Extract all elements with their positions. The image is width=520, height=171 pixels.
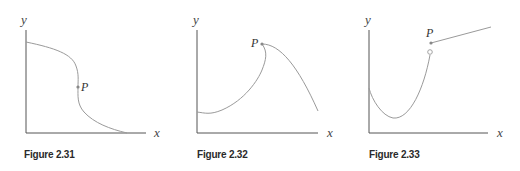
y-axis-label: y — [19, 12, 27, 27]
point-p — [76, 85, 79, 88]
caption-figure-2-32: Figure 2.32 — [197, 149, 248, 160]
caption-figure-2-31: Figure 2.31 — [24, 149, 75, 160]
curve-left — [197, 44, 266, 113]
point-p-label: P — [425, 26, 434, 40]
x-axis-label: x — [326, 125, 333, 140]
x-axis-label: x — [496, 125, 503, 140]
figure-2-32: y x P — [191, 12, 333, 140]
y-axis-label: y — [363, 12, 371, 27]
point-p — [429, 41, 432, 44]
figure-2-31: y x P — [19, 12, 160, 140]
curve — [369, 55, 430, 118]
figure-2-33: y x P — [363, 12, 503, 140]
figures-canvas: y x P y x P y x P — [0, 0, 520, 171]
curve-right — [262, 44, 318, 111]
open-circle-endpoint — [428, 50, 433, 55]
line-segment — [431, 27, 491, 43]
point-p-label: P — [250, 36, 259, 50]
point-p-label: P — [80, 80, 89, 94]
y-axis-label: y — [191, 12, 199, 27]
x-axis-label: x — [153, 125, 160, 140]
point-p — [260, 42, 263, 45]
caption-figure-2-33: Figure 2.33 — [369, 149, 420, 160]
